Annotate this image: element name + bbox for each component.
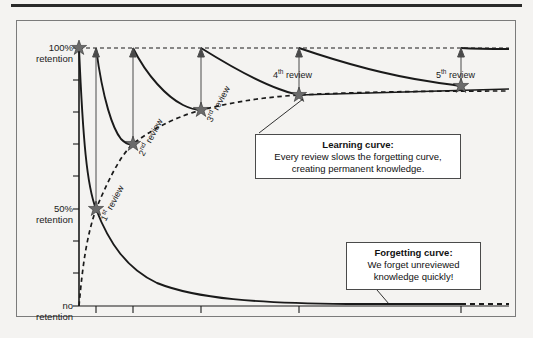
permanent-knowledge-plateau [299, 89, 509, 95]
review-decay-segment-1 [96, 48, 133, 144]
forgetting-callout-leader-line [377, 290, 389, 304]
x-axis-ticks [96, 306, 461, 313]
learning-callout-body: Every review slows the forgetting curve,… [262, 151, 454, 175]
forgetting-callout-body: We forget unreviewed knowledge quickly! [353, 259, 474, 283]
review-star-markers [71, 40, 468, 215]
learning-callout-title: Learning curve: [262, 139, 454, 151]
chart-frame: 100% retention 50% retention no retentio… [16, 20, 516, 317]
figure-page: 100% retention 50% retention no retentio… [0, 0, 533, 338]
review-decay-segment-5 [461, 48, 509, 49]
y-axis-label-100: 100% retention [17, 42, 73, 64]
forgetting-curve-callout: Forgetting curve: We forget unreviewed k… [346, 242, 481, 290]
forgetting-callout-title: Forgetting curve: [353, 247, 474, 259]
review-suffix-4: th [278, 68, 283, 75]
star-marker [291, 87, 306, 101]
review-word-4: review [286, 70, 312, 80]
y-axis-label-0: no retention [17, 300, 73, 322]
learning-callout-leader-line [259, 99, 303, 133]
page-top-rule [11, 4, 522, 7]
learning-curve-callout: Learning curve: Every review slows the f… [255, 134, 461, 179]
review-label-4: 4th review [273, 68, 312, 80]
y-axis-label-50: 50% retention [17, 203, 73, 225]
review-decay-segment-2 [133, 48, 201, 110]
review-suffix-5: th [441, 68, 446, 75]
review-word-5: review [449, 70, 475, 80]
review-label-5: 5th review [436, 68, 475, 80]
review-decay-segment-4 [299, 48, 461, 86]
y-axis-ticks [73, 48, 79, 306]
